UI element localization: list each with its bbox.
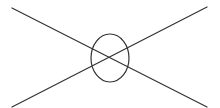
diagram-svg (0, 0, 220, 108)
diagram-canvas (0, 0, 220, 108)
